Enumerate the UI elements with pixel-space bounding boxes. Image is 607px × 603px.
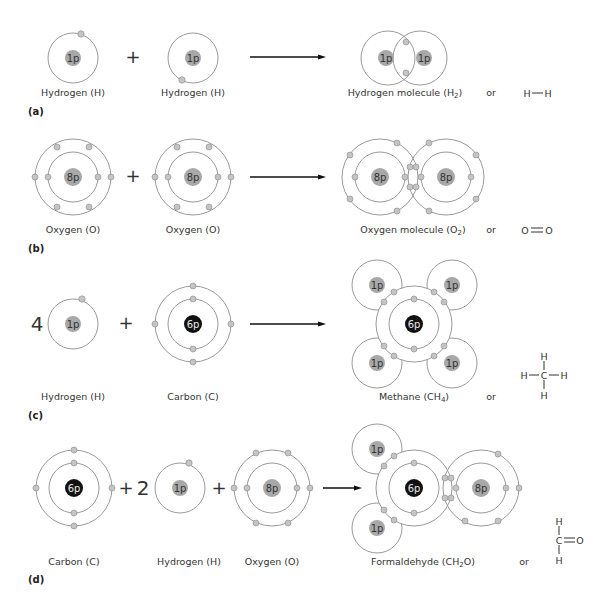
atom-label: Oxygen (O) — [166, 224, 221, 235]
svg-text:H: H — [560, 370, 567, 381]
nucleus-label: 1p — [380, 53, 393, 64]
plus-operator: + — [211, 477, 226, 498]
nucleus-label: 1p — [187, 53, 200, 64]
carbon-atom: 6p — [152, 283, 234, 365]
svg-text:O: O — [521, 225, 528, 236]
atom-label: Carbon (C) — [167, 391, 218, 402]
hydrogen-atom: 1p — [48, 31, 98, 83]
methane-molecule: 1p 1p 1p 1p 6p — [352, 260, 477, 388]
oxygen-atom: 8p — [32, 139, 114, 215]
atom-label: Hydrogen (H) — [157, 556, 221, 567]
panel-a: 1p Hydrogen (H) + 1p Hydrogen (H) 1p 1p — [28, 31, 552, 117]
molecule-label: Methane (CH4) — [379, 391, 449, 404]
atom-label: Hydrogen (H) — [161, 87, 225, 98]
molecule-label: Oxygen molecule (O2) — [360, 224, 465, 237]
reaction-arrow — [323, 486, 362, 491]
covalent-bonding-diagram: 1p Hydrogen (H) + 1p Hydrogen (H) 1p 1p — [0, 0, 607, 603]
hydrogen-molecule: 1p 1p — [361, 31, 447, 85]
svg-text:8p: 8p — [475, 483, 488, 494]
svg-text:6p: 6p — [408, 319, 421, 330]
oxygen-atom: 8p — [152, 139, 234, 215]
svg-text:1p: 1p — [371, 280, 384, 291]
svg-text:8p: 8p — [374, 172, 387, 183]
svg-text:1p: 1p — [371, 444, 384, 455]
atom-label: Oxygen (O) — [245, 556, 300, 567]
formaldehyde-molecule: 1p 1p 6p 8p — [352, 424, 522, 553]
molecule-label: Hydrogen molecule (H2) — [348, 87, 463, 100]
panel-b: 8p Oxygen (O) + 8p Oxygen ( — [28, 139, 553, 254]
reaction-arrow — [250, 322, 326, 327]
svg-text:H: H — [523, 88, 530, 99]
atom-label: Hydrogen (H) — [41, 391, 105, 402]
shared-electron — [403, 39, 409, 45]
panel-c: 4 1p Hydrogen (H) + 6p Carbon (C) — [28, 260, 568, 421]
panel-label: (d) — [28, 574, 44, 585]
svg-text:H: H — [520, 370, 527, 381]
panel-label: (c) — [28, 410, 43, 421]
or-label: or — [486, 391, 496, 402]
svg-text:6p: 6p — [68, 483, 81, 494]
or-label: or — [519, 556, 529, 567]
oxygen-atom: 8p — [231, 450, 313, 526]
atom-label: Oxygen (O) — [46, 224, 101, 235]
atom-label: Hydrogen (H) — [41, 87, 105, 98]
svg-text:8p: 8p — [67, 172, 80, 183]
nucleus-label: 1p — [418, 53, 431, 64]
reaction-arrow — [250, 175, 326, 180]
svg-text:C: C — [541, 370, 548, 381]
svg-text:8p: 8p — [187, 172, 200, 183]
coefficient: 4 — [31, 312, 44, 336]
svg-text:1p: 1p — [67, 319, 80, 330]
svg-text:H: H — [555, 516, 562, 527]
svg-text:H: H — [540, 390, 547, 401]
nucleus-label: 1p — [67, 53, 80, 64]
structural-formula: H H C H H — [520, 351, 567, 401]
plus-operator: + — [125, 165, 140, 186]
electron — [179, 77, 185, 83]
panel-label: (a) — [28, 106, 44, 117]
svg-text:1p: 1p — [371, 523, 384, 534]
svg-text:H: H — [555, 555, 562, 566]
svg-text:1p: 1p — [371, 358, 384, 369]
hydrogen-atom: 1p — [48, 296, 98, 349]
electron — [78, 31, 84, 37]
svg-text:C: C — [556, 535, 563, 546]
svg-text:1p: 1p — [174, 483, 187, 494]
panel-label: (b) — [28, 243, 44, 254]
svg-text:H: H — [540, 351, 547, 362]
svg-text:6p: 6p — [187, 319, 200, 330]
plus-operator: + — [118, 312, 133, 333]
hydrogen-atom: 1p — [168, 33, 218, 83]
shared-electron — [403, 70, 409, 76]
svg-text:8p: 8p — [440, 172, 453, 183]
structural-formula: H H — [523, 88, 551, 99]
panel-d: 6p Carbon (C) + 2 1p Hydrogen (H) + 8p — [28, 424, 584, 585]
svg-text:6p: 6p — [408, 483, 421, 494]
atom-label: Carbon (C) — [48, 556, 99, 567]
plus-operator: + — [118, 477, 133, 498]
reaction-arrow — [250, 55, 326, 60]
svg-text:H: H — [544, 88, 551, 99]
coefficient: 2 — [137, 476, 150, 500]
or-label: or — [486, 224, 496, 235]
svg-text:1p: 1p — [446, 280, 459, 291]
or-label: or — [486, 87, 496, 98]
hydrogen-atom: 1p — [155, 460, 205, 513]
svg-text:1p: 1p — [446, 358, 459, 369]
svg-text:8p: 8p — [266, 483, 279, 494]
molecule-label: Formaldehyde (CH2O) — [371, 556, 475, 569]
plus-operator: + — [125, 46, 140, 67]
structural-formula: O O — [521, 225, 552, 236]
structural-formula: H C O H — [555, 516, 583, 566]
svg-text:O: O — [545, 225, 552, 236]
carbon-atom: 6p — [33, 447, 115, 529]
svg-text:O: O — [576, 535, 583, 546]
oxygen-molecule: 8p 8p — [342, 139, 484, 215]
